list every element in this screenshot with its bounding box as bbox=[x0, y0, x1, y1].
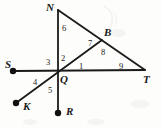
scan-artifacts bbox=[23, 6, 150, 125]
angle-label-4: 4 bbox=[33, 78, 37, 87]
vertex-label-s: S bbox=[5, 59, 11, 70]
angle-label-2: 2 bbox=[61, 54, 65, 63]
geometry-figure: N B S Q T K R 1 2 3 4 5 6 7 8 9 bbox=[0, 0, 162, 129]
vertex-label-r: R bbox=[66, 106, 73, 117]
angle-label-1: 1 bbox=[79, 62, 83, 71]
angle-label-3: 3 bbox=[46, 58, 50, 67]
vertex-label-n: N bbox=[46, 2, 54, 13]
point-marker-k bbox=[13, 100, 19, 106]
point-marker-r bbox=[55, 110, 61, 116]
vertex-label-b: B bbox=[104, 27, 111, 38]
angle-label-9: 9 bbox=[119, 62, 123, 71]
angle-label-7: 7 bbox=[88, 39, 92, 48]
angle-label-8: 8 bbox=[101, 48, 105, 57]
angle-label-6: 6 bbox=[62, 24, 66, 33]
vertex-label-q: Q bbox=[60, 74, 68, 85]
vertex-label-k: K bbox=[23, 101, 30, 112]
angle-label-5: 5 bbox=[48, 86, 52, 95]
segment-n-b-t bbox=[58, 10, 145, 70]
vertex-label-t: T bbox=[143, 74, 150, 85]
